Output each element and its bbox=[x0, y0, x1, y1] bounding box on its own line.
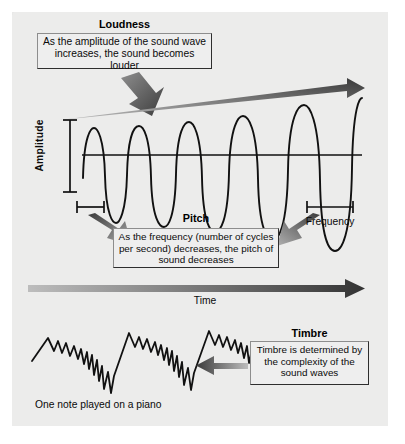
frequency-label: Frequency bbox=[300, 216, 360, 227]
amplitude-axis-label: Amplitude bbox=[34, 106, 45, 186]
pitch-text: As the frequency (number of cycles per s… bbox=[114, 229, 278, 266]
loudness-callout: As the amplitude of the sound wave incre… bbox=[37, 33, 212, 69]
wavelength-marker-right bbox=[307, 201, 353, 213]
piano-caption: One note played on a piano bbox=[35, 399, 225, 410]
wavelength-marker-left bbox=[77, 201, 104, 213]
piano-note-wave-path bbox=[32, 331, 259, 393]
time-axis-label: Time bbox=[150, 295, 260, 306]
pitch-heading: Pitch bbox=[113, 212, 279, 224]
loudness-text: As the amplitude of the sound wave incre… bbox=[38, 34, 211, 72]
timbre-pointer-arrow bbox=[196, 356, 248, 375]
pitch-callout: As the frequency (number of cycles per s… bbox=[113, 228, 279, 268]
amplitude-bracket bbox=[63, 120, 77, 192]
amplitude-growth-arrow bbox=[60, 78, 365, 120]
timbre-text: Timbre is determined by the complexity o… bbox=[251, 342, 368, 379]
loudness-heading: Loudness bbox=[37, 18, 212, 30]
timbre-callout: Timbre is determined by the complexity o… bbox=[250, 341, 369, 385]
figure-root: Loudness As the amplitude of the sound w… bbox=[0, 0, 405, 444]
timbre-heading: Timbre bbox=[250, 327, 369, 339]
